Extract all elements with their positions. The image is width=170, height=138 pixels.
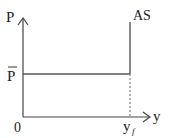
as-curve-label: AS bbox=[133, 8, 151, 23]
price-level-label: P bbox=[7, 68, 15, 84]
full-employment-output-label: y f bbox=[123, 118, 136, 136]
as-diagram: P AS P 0 y f y bbox=[0, 0, 170, 138]
output-label-subscript: f bbox=[132, 126, 136, 136]
origin-label: 0 bbox=[14, 120, 21, 135]
price-level-label-group: P bbox=[7, 67, 17, 84]
y-axis-label: P bbox=[6, 9, 14, 25]
x-axis-label: y bbox=[153, 108, 161, 124]
output-label-main: y bbox=[123, 118, 131, 134]
